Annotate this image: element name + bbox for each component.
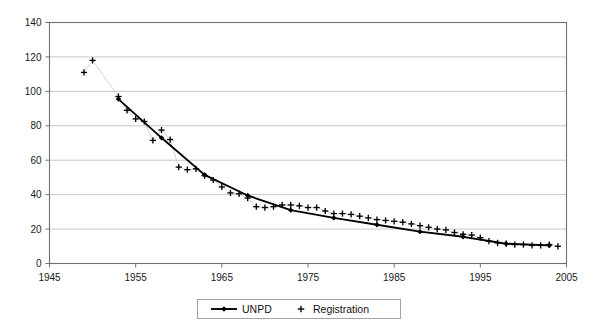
data-point-plus [391, 218, 397, 224]
x-axis-ticks [50, 264, 567, 268]
y-tick-label: 140 [25, 17, 42, 28]
legend-label-registration: Registration [313, 303, 369, 315]
y-axis-ticks [46, 23, 50, 264]
data-point-plus [382, 217, 388, 223]
y-tick-label: 20 [30, 224, 42, 235]
legend-label-unpd: UNPD [242, 303, 272, 315]
series-registration [81, 57, 561, 249]
data-point-plus [426, 224, 432, 230]
x-axis-tick-labels: 1945195519651975198519952005 [38, 272, 578, 283]
data-point-diamond [331, 215, 336, 220]
data-point-plus [400, 219, 406, 225]
data-point-plus [227, 190, 233, 196]
data-point-plus [357, 213, 363, 219]
y-tick-label: 100 [25, 86, 42, 97]
line-chart: 020406080100120140 194519551965197519851… [0, 0, 596, 329]
data-point-diamond [374, 222, 379, 227]
data-point-plus [322, 208, 328, 214]
data-point-plus [434, 226, 440, 232]
y-tick-label: 120 [25, 52, 42, 63]
data-point-plus [288, 202, 294, 208]
data-point-diamond [460, 234, 465, 239]
data-point-plus [314, 204, 320, 210]
x-tick-label: 1975 [297, 272, 320, 283]
data-point-plus [408, 221, 414, 227]
data-point-plus [374, 217, 380, 223]
registration-connector-line [84, 60, 558, 246]
data-point-diamond [547, 243, 552, 248]
data-point-plus [339, 210, 345, 216]
data-point-plus [262, 204, 268, 210]
x-tick-label: 1995 [469, 272, 492, 283]
x-tick-label: 1965 [211, 272, 234, 283]
x-tick-label: 1955 [125, 272, 148, 283]
series-unpd [116, 96, 552, 248]
data-point-plus [176, 164, 182, 170]
data-point-plus [305, 204, 311, 210]
x-tick-label: 2005 [555, 272, 578, 283]
y-tick-label: 80 [30, 120, 42, 131]
data-point-plus [417, 223, 423, 229]
data-point-plus [184, 167, 190, 173]
data-point-plus [348, 211, 354, 217]
y-axis-tick-labels: 020406080100120140 [25, 17, 42, 269]
y-tick-label: 40 [30, 189, 42, 200]
data-point-plus [89, 57, 95, 63]
data-point-plus [81, 69, 87, 75]
chart-legend: UNPDRegistration [198, 300, 401, 319]
data-point-diamond [503, 241, 508, 246]
data-point-plus [365, 215, 371, 221]
plot-frame [50, 23, 567, 264]
x-tick-label: 1985 [383, 272, 406, 283]
unpd-trend-line [118, 99, 549, 245]
x-tick-label: 1945 [38, 272, 61, 283]
data-point-diamond [417, 229, 422, 234]
chart-container: 020406080100120140 194519551965197519851… [0, 0, 596, 329]
gridlines [50, 57, 567, 229]
data-point-plus [555, 243, 561, 249]
data-point-plus [443, 227, 449, 233]
data-point-plus [296, 203, 302, 209]
y-tick-label: 0 [36, 258, 42, 269]
y-tick-label: 60 [30, 155, 42, 166]
data-point-diamond [288, 207, 293, 212]
